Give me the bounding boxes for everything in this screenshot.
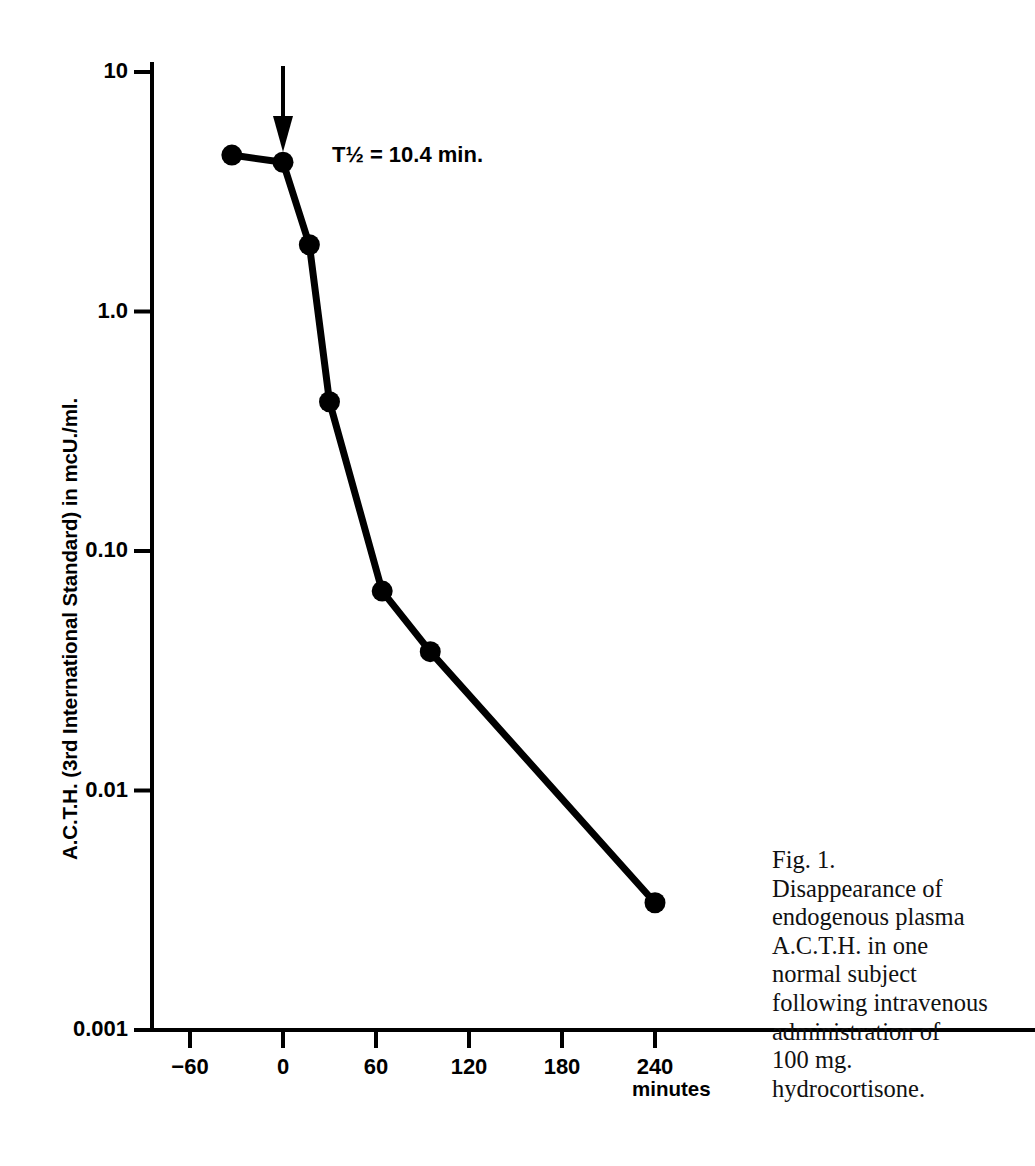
y-axis-tick-label: 10 xyxy=(0,58,128,84)
data-series-points xyxy=(221,145,665,914)
data-point-marker xyxy=(645,892,666,913)
figure-caption-line: Disappearance of xyxy=(772,875,1034,904)
injection-arrow-icon xyxy=(273,66,293,152)
data-point-marker xyxy=(299,234,320,255)
data-point-marker xyxy=(372,581,393,602)
figure-caption-line: normal subject xyxy=(772,960,1034,989)
x-axis-title: minutes xyxy=(632,1077,711,1101)
figure-caption-line: following intravenous xyxy=(772,989,1034,1018)
figure-caption-line: A.C.T.H. in one xyxy=(772,932,1034,961)
figure-panel: A.C.T.H. (3rd International Standard) in… xyxy=(0,0,1035,1166)
data-point-marker xyxy=(319,391,340,412)
y-axis-tick-label: 0.01 xyxy=(0,777,128,803)
half-life-annotation: T½ = 10.4 min. xyxy=(332,142,483,168)
data-series-line xyxy=(232,155,655,903)
figure-caption-line: administration of xyxy=(772,1018,1034,1047)
figure-caption: Fig. 1.Disappearance ofendogenous plasma… xyxy=(772,846,1034,1103)
y-axis-tick-label: 0.10 xyxy=(0,537,128,563)
figure-caption-line: Fig. 1. xyxy=(772,846,1034,875)
data-point-marker xyxy=(420,641,441,662)
y-axis-ticks xyxy=(134,72,152,1030)
data-point-marker xyxy=(273,152,294,173)
data-point-marker xyxy=(221,145,242,166)
y-axis-tick-label: 0.001 xyxy=(0,1016,128,1042)
y-axis-tick-label: 1.0 xyxy=(0,298,128,324)
x-axis-ticks xyxy=(190,1030,655,1048)
figure-caption-line: hydrocortisone. xyxy=(772,1075,1034,1104)
figure-caption-line: 100 mg. xyxy=(772,1046,1034,1075)
figure-caption-line: endogenous plasma xyxy=(772,903,1034,932)
